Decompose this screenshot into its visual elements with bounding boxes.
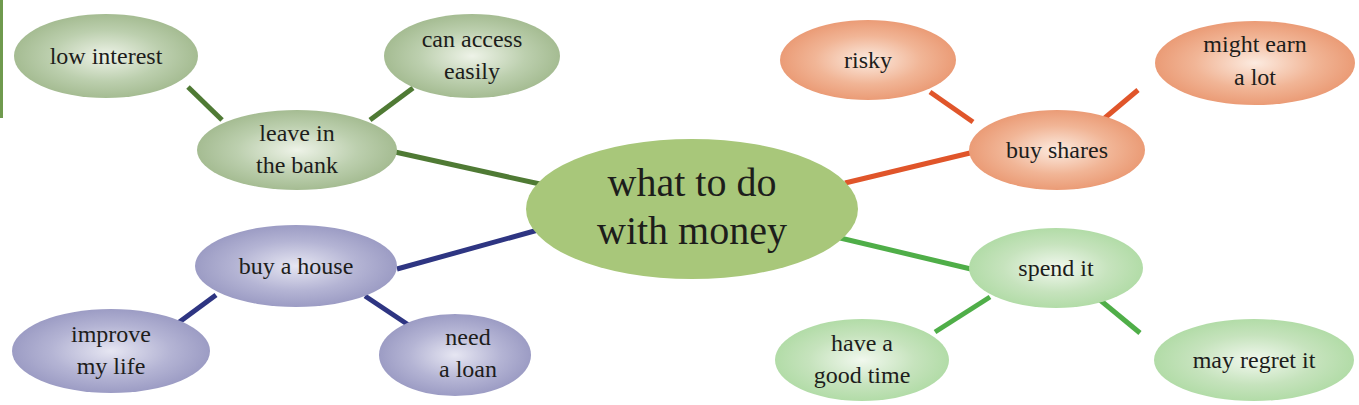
node-label: need xyxy=(445,324,490,350)
node-label: easily xyxy=(444,58,500,84)
node-leave-in-the-bank[interactable]: leave in the bank xyxy=(197,110,397,190)
node-label: a lot xyxy=(1234,64,1276,90)
node-label: may regret it xyxy=(1193,347,1316,373)
mind-map: low interest can access easily leave in … xyxy=(0,0,1359,405)
node-label: leave in xyxy=(259,120,334,146)
node-label: spend it xyxy=(1018,255,1094,281)
node-label: have a xyxy=(831,330,893,356)
node-label: can access xyxy=(422,26,523,52)
node-might-earn-a-lot[interactable]: might earn a lot xyxy=(1155,21,1355,105)
node-label: buy shares xyxy=(1006,137,1108,163)
connector-spend-regret xyxy=(1100,300,1140,333)
node-label: the bank xyxy=(256,152,338,178)
node-label: good time xyxy=(814,362,911,388)
node-label: my life xyxy=(77,353,146,379)
node-label: improve xyxy=(71,321,151,347)
node-need-a-loan[interactable]: need a loan xyxy=(379,314,531,396)
connector-house-loan xyxy=(365,296,410,326)
node-label: risky xyxy=(844,47,892,73)
node-may-regret-it[interactable]: may regret it xyxy=(1154,319,1354,401)
node-can-access-easily[interactable]: can access easily xyxy=(384,14,560,98)
connector-center-bank xyxy=(395,152,540,184)
node-label: buy a house xyxy=(239,253,354,279)
node-have-a-good-time[interactable]: have a good time xyxy=(775,319,949,401)
center-label: what to do xyxy=(608,160,777,205)
connector-shares-risky xyxy=(930,92,973,122)
connector-center-spend xyxy=(836,237,975,270)
connector-bank-low-interest xyxy=(188,87,222,120)
connector-house-improve xyxy=(178,295,216,323)
node-label: low interest xyxy=(50,43,163,69)
node-label: might earn xyxy=(1203,31,1306,57)
connector-center-house xyxy=(397,230,538,269)
connector-center-shares xyxy=(845,153,970,183)
node-buy-a-house[interactable]: buy a house xyxy=(195,225,397,307)
node-center[interactable]: what to do with money xyxy=(526,139,858,279)
connector-bank-access xyxy=(370,88,413,120)
connector-spend-goodtime xyxy=(935,297,990,332)
node-spend-it[interactable]: spend it xyxy=(969,228,1143,308)
node-risky[interactable]: risky xyxy=(780,20,956,100)
node-label: a loan xyxy=(439,356,497,382)
node-buy-shares[interactable]: buy shares xyxy=(969,110,1145,190)
node-low-interest[interactable]: low interest xyxy=(14,14,198,98)
center-label: with money xyxy=(597,208,787,253)
node-improve-my-life[interactable]: improve my life xyxy=(12,309,210,393)
